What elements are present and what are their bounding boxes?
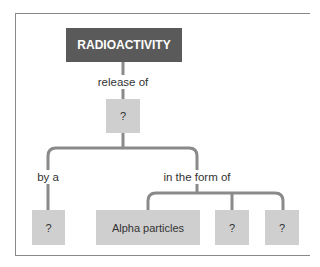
link-label-in-the-form-of: in the form of	[163, 170, 230, 184]
node-release-unknown: ?	[106, 99, 140, 133]
node-by-a-unknown: ?	[32, 210, 65, 245]
node-alpha-particles: Alpha particles	[96, 210, 200, 245]
node-form-unknown-2: ?	[265, 210, 299, 245]
node-form-unknown-1: ?	[215, 210, 249, 245]
link-label-release-of: release of	[98, 75, 149, 89]
root-node-radioactivity: RADIOACTIVITY	[66, 28, 182, 62]
link-label-by-a: by a	[37, 170, 59, 184]
